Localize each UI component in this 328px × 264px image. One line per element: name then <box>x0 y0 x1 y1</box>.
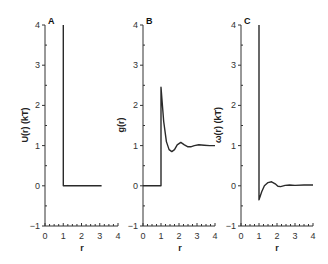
x-tick-label: 0 <box>140 231 145 241</box>
x-axis-label-a: r <box>80 243 84 253</box>
line-g-r <box>143 87 215 186</box>
y-tick-label: 2 <box>133 100 138 110</box>
y-tick-label: 3 <box>231 60 236 70</box>
y-tick-label: 4 <box>231 20 236 30</box>
figure: A U(r) (kT) r −10123401234 B g(r) r −101… <box>0 0 328 264</box>
x-tick-label: 3 <box>97 231 102 241</box>
panel-label-c: C <box>244 16 251 26</box>
axes-c: −10123401234 <box>226 20 316 241</box>
y-tick-label: 2 <box>35 100 40 110</box>
y-tick-label: 1 <box>133 141 138 151</box>
y-tick-label: 0 <box>35 181 40 191</box>
x-tick-label: 0 <box>238 231 243 241</box>
x-tick-label: 3 <box>292 231 297 241</box>
y-tick-label: 3 <box>133 60 138 70</box>
axes-a: −10123401234 <box>30 20 121 241</box>
x-tick-label: 4 <box>212 231 217 241</box>
x-tick-label: 3 <box>194 231 199 241</box>
line-u-r <box>63 25 101 186</box>
panel-label-b: B <box>146 16 153 26</box>
y-axis-label-a: U(r) (kT) <box>20 108 30 143</box>
panel-c: C ω(r) (kT) r −10123401234 <box>213 16 316 253</box>
x-tick-label: 2 <box>176 231 181 241</box>
panel-a: A U(r) (kT) r −10123401234 <box>20 16 121 253</box>
panel-label-a: A <box>48 16 55 26</box>
y-tick-label: −1 <box>30 221 40 231</box>
y-tick-label: 3 <box>35 60 40 70</box>
x-tick-label: 0 <box>42 231 47 241</box>
axes-b: −10123401234 <box>128 20 218 241</box>
y-axis-label-c: ω(r) (kT) <box>213 107 223 143</box>
y-tick-label: −1 <box>226 221 236 231</box>
x-tick-label: 2 <box>79 231 84 241</box>
y-tick-label: 0 <box>133 181 138 191</box>
y-tick-label: 4 <box>35 20 40 30</box>
line-omega-r <box>259 25 313 200</box>
x-tick-label: 2 <box>274 231 279 241</box>
x-tick-label: 4 <box>115 231 120 241</box>
x-axis-label-c: r <box>275 243 279 253</box>
y-tick-label: 0 <box>231 181 236 191</box>
panel-b: B g(r) r −10123401234 <box>116 16 218 253</box>
x-tick-label: 1 <box>256 231 261 241</box>
x-tick-label: 1 <box>158 231 163 241</box>
y-tick-label: 1 <box>231 141 236 151</box>
y-tick-label: 4 <box>133 20 138 30</box>
x-tick-label: 1 <box>61 231 66 241</box>
y-tick-label: 2 <box>231 100 236 110</box>
y-tick-label: −1 <box>128 221 138 231</box>
y-axis-label-b: g(r) <box>116 118 126 133</box>
y-tick-label: 1 <box>35 141 40 151</box>
x-axis-label-b: r <box>178 243 182 253</box>
x-tick-label: 4 <box>310 231 315 241</box>
